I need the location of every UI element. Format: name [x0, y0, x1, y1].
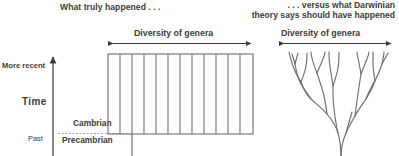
panel-what-truly-happened: [108, 54, 253, 156]
diagram-artwork: [0, 0, 399, 156]
lineage-lines: [120, 54, 240, 134]
evolution-diversity-figure: What truly happened . . . . . . versus w…: [0, 0, 399, 156]
panel-darwinian-tree: [289, 52, 388, 156]
